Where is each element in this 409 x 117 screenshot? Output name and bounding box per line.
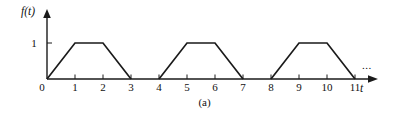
figure-caption: (a) bbox=[0, 96, 409, 109]
x-tick-label-11: 11 bbox=[347, 81, 363, 93]
x-tick-label-7: 7 bbox=[237, 81, 249, 93]
y-axis-arrowhead bbox=[43, 9, 51, 18]
x-tick-label-1: 1 bbox=[69, 81, 81, 93]
figure-container: f(t) t 1 0 1 2 3 4 5 6 7 8 9 10 11 ... (… bbox=[0, 0, 409, 117]
waveform-pulse-3 bbox=[271, 43, 355, 79]
x-tick-label-9: 9 bbox=[293, 81, 305, 93]
y-tick-label-1: 1 bbox=[28, 37, 40, 49]
x-tick-label-10: 10 bbox=[319, 81, 335, 93]
x-tick-label-2: 2 bbox=[97, 81, 109, 93]
waveform-pulse-1 bbox=[47, 43, 131, 79]
x-tick-label-6: 6 bbox=[209, 81, 221, 93]
x-axis-arrowhead bbox=[368, 75, 378, 83]
x-tick-label-8: 8 bbox=[265, 81, 277, 93]
waveform-pulse-2 bbox=[159, 43, 243, 79]
x-tick-label-3: 3 bbox=[125, 81, 137, 93]
continuation-ellipsis: ... bbox=[362, 60, 372, 70]
x-tick-label-0: 0 bbox=[36, 81, 48, 93]
y-axis-label: f(t) bbox=[21, 5, 35, 17]
x-tick-label-4: 4 bbox=[153, 81, 165, 93]
x-tick-label-5: 5 bbox=[181, 81, 193, 93]
